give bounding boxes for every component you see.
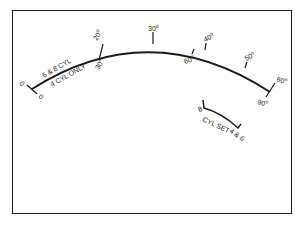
cyl-set-left-end: 8: [197, 105, 203, 113]
dial-diagram: 0 20o 30o 40o 50o 60o 0 30o 60o 90o 6 & …: [0, 0, 304, 225]
outer-label-30: 30o: [148, 23, 159, 32]
cyl-set-right-end: 4 & 6: [228, 127, 245, 142]
outer-label-60: 60o: [276, 73, 289, 85]
outer-label-50: 50o: [243, 49, 257, 62]
inner-label-0: 0: [37, 93, 45, 101]
outer-label-0: 0: [18, 80, 26, 88]
inner-label-60: 60o: [182, 53, 195, 65]
outer-label-40: 40o: [202, 30, 216, 43]
outer-label-20: 20o: [90, 28, 103, 42]
tick-50: [245, 62, 247, 68]
tick-40: [205, 43, 206, 50]
inner-label-90: 90o: [257, 96, 270, 107]
